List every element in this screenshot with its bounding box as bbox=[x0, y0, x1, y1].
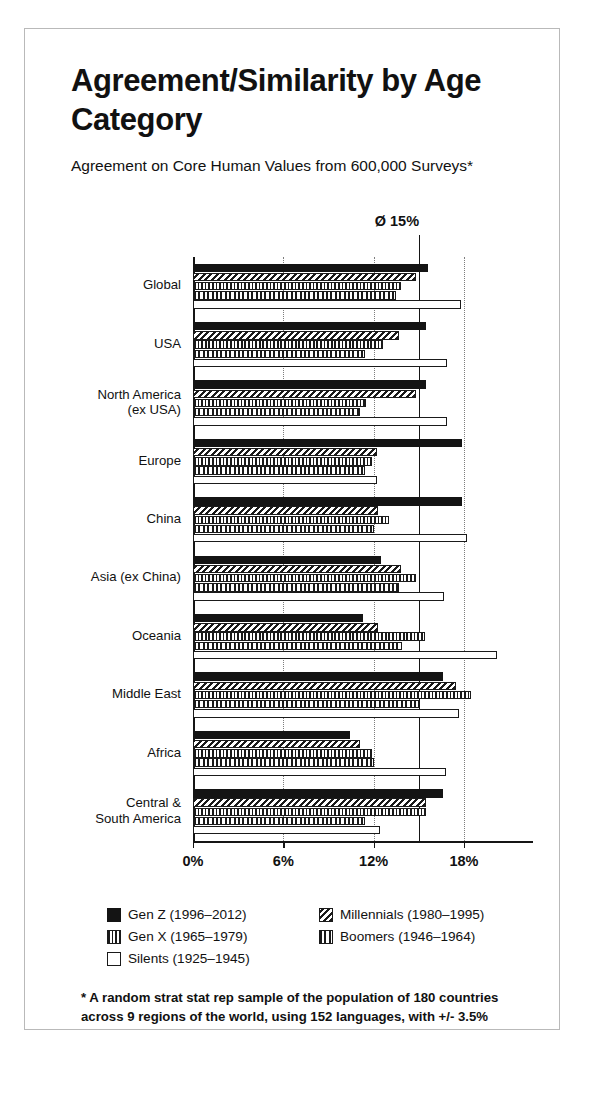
bar-genz[interactable] bbox=[193, 672, 443, 681]
bar-boomers[interactable] bbox=[193, 350, 365, 359]
bar-genx[interactable] bbox=[193, 340, 383, 349]
category-label-4: China bbox=[41, 511, 181, 527]
bar-genz[interactable] bbox=[193, 439, 462, 448]
bar-genz[interactable] bbox=[193, 556, 381, 565]
bar-silents[interactable] bbox=[193, 768, 446, 777]
bar-silents[interactable] bbox=[193, 592, 444, 601]
bar-silents[interactable] bbox=[193, 651, 497, 660]
x-tick-6% bbox=[283, 841, 284, 848]
x-tick-label: 0% bbox=[183, 853, 204, 869]
bar-millennials[interactable] bbox=[193, 798, 426, 807]
legend-item-millennials[interactable]: Millennials (1980–1995) bbox=[319, 907, 484, 922]
bar-chart: Ø 15%0%6%12%18%GlobalUSANorth America (e… bbox=[25, 29, 560, 1030]
bar-boomers[interactable] bbox=[193, 700, 419, 709]
bar-boomers[interactable] bbox=[193, 525, 374, 534]
bar-silents[interactable] bbox=[193, 417, 447, 426]
legend-item-genz[interactable]: Gen Z (1996–2012) bbox=[107, 907, 247, 922]
x-tick-label: 18% bbox=[449, 853, 478, 869]
legend-label: Boomers (1946–1964) bbox=[340, 929, 475, 944]
infographic-card: Agreement/Similarity by Age Category Agr… bbox=[24, 28, 560, 1030]
bar-silents[interactable] bbox=[193, 826, 380, 835]
bar-silents[interactable] bbox=[193, 476, 377, 485]
bar-millennials[interactable] bbox=[193, 682, 456, 691]
legend-swatch-boomers-icon bbox=[319, 930, 333, 944]
bar-genz[interactable] bbox=[193, 322, 426, 331]
legend-swatch-millennials-icon bbox=[319, 908, 333, 922]
bar-millennials[interactable] bbox=[193, 565, 401, 574]
bar-boomers[interactable] bbox=[193, 466, 365, 475]
category-label-9: Central & South America bbox=[41, 795, 181, 826]
bar-genx[interactable] bbox=[193, 632, 425, 641]
bar-boomers[interactable] bbox=[193, 291, 396, 300]
bar-silents[interactable] bbox=[193, 300, 461, 309]
bar-genz[interactable] bbox=[193, 789, 443, 798]
bar-genz[interactable] bbox=[193, 614, 363, 623]
gridline-18pct bbox=[464, 257, 465, 841]
footnote-text: * A random strat stat rep sample of the … bbox=[81, 989, 521, 1030]
bar-genz[interactable] bbox=[193, 497, 462, 506]
legend-label: Millennials (1980–1995) bbox=[340, 907, 484, 922]
bar-millennials[interactable] bbox=[193, 273, 416, 282]
x-tick-label: 6% bbox=[273, 853, 294, 869]
bar-genx[interactable] bbox=[193, 808, 426, 817]
bar-silents[interactable] bbox=[193, 709, 459, 718]
legend-swatch-genz-icon bbox=[107, 908, 121, 922]
legend-label: Gen X (1965–1979) bbox=[128, 929, 247, 944]
bar-millennials[interactable] bbox=[193, 390, 416, 399]
bar-silents[interactable] bbox=[193, 534, 467, 543]
legend-label: Gen Z (1996–2012) bbox=[128, 907, 247, 922]
category-label-2: North America (ex USA) bbox=[41, 387, 181, 418]
x-tick-label: 12% bbox=[359, 853, 388, 869]
x-tick-12% bbox=[374, 841, 375, 848]
bar-genx[interactable] bbox=[193, 516, 389, 525]
legend-swatch-genx-icon bbox=[107, 930, 121, 944]
category-label-1: USA bbox=[41, 336, 181, 352]
bar-millennials[interactable] bbox=[193, 623, 378, 632]
category-label-3: Europe bbox=[41, 453, 181, 469]
bar-boomers[interactable] bbox=[193, 758, 374, 767]
bar-boomers[interactable] bbox=[193, 817, 365, 826]
bar-millennials[interactable] bbox=[193, 331, 399, 340]
average-line-label: Ø 15% bbox=[375, 213, 419, 229]
category-label-0: Global bbox=[41, 277, 181, 293]
x-axis bbox=[193, 841, 533, 843]
bar-boomers[interactable] bbox=[193, 642, 402, 651]
bar-genx[interactable] bbox=[193, 282, 401, 291]
legend-item-silents[interactable]: Silents (1925–1945) bbox=[107, 951, 250, 966]
bar-millennials[interactable] bbox=[193, 506, 378, 515]
bar-genx[interactable] bbox=[193, 691, 471, 700]
legend-label: Silents (1925–1945) bbox=[128, 951, 250, 966]
x-tick-0% bbox=[193, 841, 194, 848]
bar-genz[interactable] bbox=[193, 264, 428, 273]
bar-genz[interactable] bbox=[193, 380, 426, 389]
bar-genx[interactable] bbox=[193, 574, 416, 583]
category-label-5: Asia (ex China) bbox=[41, 569, 181, 585]
legend-item-boomers[interactable]: Boomers (1946–1964) bbox=[319, 929, 475, 944]
category-label-7: Middle East bbox=[41, 686, 181, 702]
legend-item-genx[interactable]: Gen X (1965–1979) bbox=[107, 929, 247, 944]
bar-millennials[interactable] bbox=[193, 448, 377, 457]
bar-millennials[interactable] bbox=[193, 740, 360, 749]
bar-boomers[interactable] bbox=[193, 408, 360, 417]
legend-swatch-silents-icon bbox=[107, 952, 121, 966]
x-tick-18% bbox=[464, 841, 465, 848]
bar-genx[interactable] bbox=[193, 749, 372, 758]
bar-boomers[interactable] bbox=[193, 583, 399, 592]
bar-genx[interactable] bbox=[193, 457, 372, 466]
bar-silents[interactable] bbox=[193, 359, 447, 368]
bar-genz[interactable] bbox=[193, 731, 350, 740]
category-label-8: Africa bbox=[41, 745, 181, 761]
category-label-6: Oceania bbox=[41, 628, 181, 644]
bar-genx[interactable] bbox=[193, 399, 366, 408]
